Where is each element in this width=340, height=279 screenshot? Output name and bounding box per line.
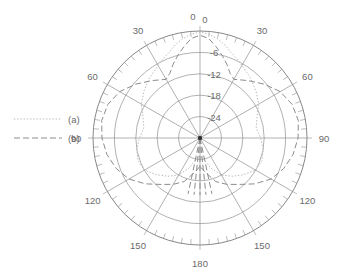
polar-minor-tick	[300, 156, 305, 157]
angle-tick-label: 0	[190, 11, 195, 22]
polar-major-tick	[103, 192, 107, 195]
polar-minor-tick	[124, 62, 128, 66]
polar-null-lobe	[188, 138, 200, 194]
polar-plot-canvas: 00303060609090120120150150180 -6-12-18-2…	[0, 0, 340, 279]
polar-chart-figure: 00303060609090120120150150180 -6-12-18-2…	[0, 0, 340, 279]
polar-minor-tick	[258, 50, 261, 55]
polar-minor-tick	[265, 56, 269, 60]
polar-minor-tick	[292, 93, 297, 95]
polar-minor-tick	[131, 216, 135, 220]
polar-major-tick	[254, 231, 257, 235]
polar-minor-tick	[283, 196, 288, 199]
polar-minor-tick	[292, 181, 297, 183]
polar-minor-tick	[226, 35, 227, 40]
polar-minor-tick	[181, 33, 182, 38]
polar-minor-tick	[258, 221, 261, 226]
angle-tick-label: 120	[299, 195, 315, 206]
polar-major-tick	[103, 82, 107, 85]
polar-minor-tick	[103, 181, 108, 183]
polar-minor-tick	[181, 238, 182, 243]
polar-minor-tick	[300, 119, 305, 120]
polar-minor-tick	[103, 93, 108, 95]
radial-tick-label: -18	[207, 90, 221, 101]
polar-minor-tick	[155, 41, 157, 46]
polar-minor-tick	[243, 230, 245, 235]
radial-tick-labels: -6-12-18-24	[207, 47, 221, 122]
polar-origin-marker	[198, 136, 202, 140]
polar-minor-tick	[163, 233, 165, 238]
polar-minor-tick	[172, 236, 173, 241]
polar-grid-spoke	[147, 45, 201, 138]
polar-minor-tick	[155, 230, 157, 235]
polar-minor-tick	[99, 173, 104, 175]
angle-tick-label: 120	[85, 195, 101, 206]
polar-minor-tick	[118, 203, 122, 207]
polar-minor-tick	[278, 69, 282, 73]
angle-tick-label: 30	[257, 25, 268, 36]
polar-minor-tick	[163, 37, 165, 42]
polar-minor-tick	[295, 173, 300, 175]
radial-tick-label: -24	[207, 112, 221, 123]
polar-minor-tick	[139, 50, 142, 55]
angle-tick-label: 180	[192, 258, 208, 269]
polar-minor-tick	[265, 216, 269, 220]
angle-tick-label: 60	[302, 71, 313, 82]
polar-grid-spoke	[147, 138, 201, 231]
polar-minor-tick	[235, 233, 237, 238]
radial-tick-label: -12	[207, 69, 221, 80]
polar-minor-tick	[99, 101, 104, 103]
polar-minor-tick	[95, 119, 100, 120]
polar-minor-tick	[272, 210, 276, 214]
angle-tick-label: 30	[133, 25, 144, 36]
legend-label-a: (a)	[68, 114, 80, 125]
angle-tick-label: 150	[254, 240, 270, 251]
polar-minor-tick	[278, 203, 282, 207]
angle-tick-label: 150	[130, 240, 146, 251]
polar-minor-tick	[235, 37, 237, 42]
polar-minor-tick	[118, 69, 122, 73]
polar-minor-tick	[295, 101, 300, 103]
polar-minor-tick	[283, 77, 288, 80]
polar-minor-tick	[272, 62, 276, 66]
polar-minor-tick	[112, 196, 117, 199]
polar-minor-tick	[298, 110, 303, 111]
angle-tick-label: 60	[87, 71, 98, 82]
angle-tick-label: 90	[319, 133, 330, 144]
polar-major-tick	[144, 41, 147, 45]
polar-minor-tick	[243, 41, 245, 46]
polar-minor-tick	[124, 210, 128, 214]
polar-minor-tick	[226, 236, 227, 241]
polar-major-tick	[144, 231, 147, 235]
polar-major-tick	[293, 82, 297, 85]
legend-label-b: (b)	[68, 133, 80, 144]
polar-minor-tick	[218, 33, 219, 38]
chart-legend: (a) (b)	[14, 114, 80, 144]
polar-null-lobe	[200, 138, 212, 194]
polar-minor-tick	[97, 110, 102, 111]
polar-minor-tick	[172, 35, 173, 40]
polar-major-tick	[293, 192, 297, 195]
polar-major-tick	[254, 41, 257, 45]
angle-tick-label: 0	[202, 14, 207, 25]
polar-minor-tick	[95, 156, 100, 157]
polar-grid-spoke	[107, 85, 200, 139]
polar-minor-tick	[97, 164, 102, 165]
polar-minor-tick	[298, 164, 303, 165]
polar-minor-tick	[218, 238, 219, 243]
polar-grid-spoke	[107, 138, 200, 192]
polar-minor-tick	[131, 56, 135, 60]
polar-minor-tick	[139, 221, 142, 226]
radial-tick-label: -6	[210, 47, 218, 58]
polar-minor-tick	[112, 77, 117, 80]
polar-grid-spoke	[200, 138, 293, 192]
